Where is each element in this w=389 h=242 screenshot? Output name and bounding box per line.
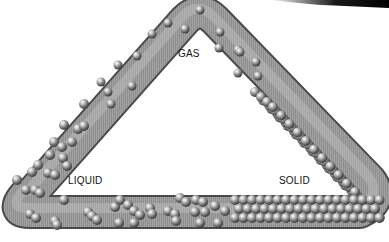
- liquid-label: LIQUID: [68, 175, 103, 186]
- solid-label: SOLID: [279, 175, 310, 186]
- states-of-matter-diagram: [0, 0, 389, 242]
- gas-label: GAS: [178, 48, 200, 59]
